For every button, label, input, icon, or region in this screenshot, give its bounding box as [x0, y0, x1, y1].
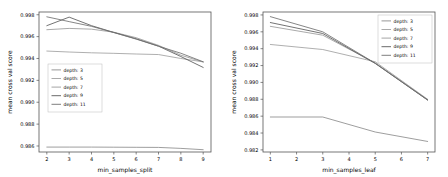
y-tick-label: 0.998: [244, 12, 258, 18]
legend-label: depth: 3: [394, 19, 413, 24]
x-tick-label: 5: [374, 156, 377, 162]
y-axis-label: mean cross val score: [230, 50, 237, 114]
chart-panel-min-samples-leaf: 0.9820.9840.9860.9880.9900.9920.9940.996…: [224, 0, 448, 177]
x-axis-ticks: 1234567: [269, 152, 430, 162]
y-tick-label: 0.986: [20, 143, 34, 149]
x-tick-label: 4: [90, 156, 93, 162]
legend-label: depth: 3: [64, 68, 83, 73]
y-tick-label: 0.994: [244, 45, 258, 51]
chart-legend: depth: 3depth: 5depth: 7depth: 9depth: 1…: [48, 64, 102, 112]
y-tick-label: 0.998: [20, 12, 34, 18]
y-tick-label: 0.990: [244, 79, 258, 85]
y-tick-label: 0.988: [20, 121, 34, 127]
y-tick-label: 0.990: [20, 99, 34, 105]
x-tick-label: 7: [426, 156, 429, 162]
x-tick-label: 2: [295, 156, 298, 162]
y-axis-label: mean cross val score: [6, 50, 13, 114]
y-tick-label: 0.996: [244, 29, 258, 35]
chart-panel-min-samples-split: 0.9860.9880.9900.9920.9940.9960.998 2345…: [0, 0, 224, 177]
legend-label: depth: 7: [64, 85, 83, 90]
x-tick-label: 4: [347, 156, 350, 162]
chart-legend: depth: 3depth: 5depth: 7depth: 9depth: 1…: [378, 15, 432, 63]
legend-label: depth: 7: [394, 36, 413, 41]
x-axis-label: min_samples_split: [98, 166, 154, 174]
x-axis-label: min_samples_leaf: [322, 166, 376, 174]
y-tick-label: 0.988: [244, 96, 258, 102]
figure-container: 0.9860.9880.9900.9920.9940.9960.998 2345…: [0, 0, 448, 177]
x-tick-label: 8: [179, 156, 182, 162]
x-axis-ticks: 23456789: [45, 152, 205, 162]
x-tick-label: 1: [269, 156, 272, 162]
y-axis-ticks: 0.9860.9880.9900.9920.9940.9960.998: [20, 12, 39, 149]
x-tick-label: 3: [68, 156, 71, 162]
y-tick-label: 0.996: [20, 33, 34, 39]
x-tick-label: 9: [202, 156, 205, 162]
legend-label: depth: 11: [394, 53, 416, 58]
y-tick-label: 0.984: [244, 130, 258, 136]
legend-label: depth: 5: [64, 76, 83, 81]
x-tick-label: 5: [112, 156, 115, 162]
legend-label: depth: 9: [394, 44, 413, 49]
y-tick-label: 0.982: [244, 147, 258, 153]
y-tick-label: 0.986: [244, 113, 258, 119]
legend-label: depth: 11: [64, 102, 86, 107]
legend-label: depth: 9: [64, 93, 83, 98]
x-tick-label: 7: [157, 156, 160, 162]
line-chart-min-samples-split: 0.9860.9880.9900.9920.9940.9960.998 2345…: [0, 0, 224, 177]
y-axis-ticks: 0.9820.9840.9860.9880.9900.9920.9940.996…: [244, 12, 263, 153]
line-chart-min-samples-leaf: 0.9820.9840.9860.9880.9900.9920.9940.996…: [224, 0, 448, 177]
y-tick-label: 0.992: [20, 77, 34, 83]
legend-label: depth: 5: [394, 27, 413, 32]
y-tick-label: 0.992: [244, 62, 258, 68]
x-tick-label: 2: [45, 156, 48, 162]
x-tick-label: 6: [135, 156, 138, 162]
x-tick-label: 6: [400, 156, 403, 162]
x-tick-label: 3: [321, 156, 324, 162]
y-tick-label: 0.994: [20, 55, 34, 61]
